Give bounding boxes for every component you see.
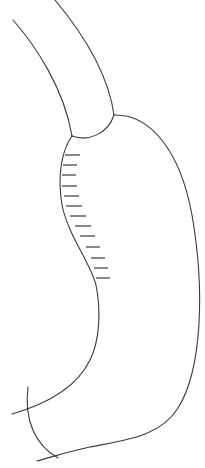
hatch-marks: [62, 155, 110, 278]
gastroesophageal-junction-arc: [72, 115, 114, 138]
lesser-curvature: [12, 136, 99, 414]
stomach-diagram: [0, 0, 205, 468]
esophagus-right-wall: [55, 0, 114, 115]
esophagus: [13, 0, 114, 138]
stomach: [12, 115, 200, 461]
esophagus-left-wall: [13, 20, 72, 136]
